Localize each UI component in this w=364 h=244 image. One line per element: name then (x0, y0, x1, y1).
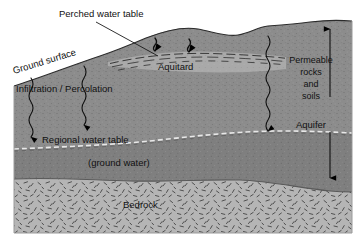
label-aquifer: Aquifer (296, 119, 326, 130)
label-permeable-line1: Permeable (289, 55, 333, 65)
groundwater-cross-section: Perched water table Ground surface Infil… (0, 0, 364, 244)
label-permeable-line3: and (303, 79, 318, 89)
label-regional-water-table: Regional water table (42, 134, 129, 145)
label-permeable-line2: rocks (300, 67, 322, 77)
diagram-canvas: Perched water table Ground surface Infil… (0, 0, 364, 244)
label-bedrock: Bedrock (123, 199, 158, 210)
label-perched-water-table: Perched water table (59, 8, 144, 19)
label-aquitard: Aquitard (158, 61, 193, 72)
label-infiltration-percolation: Infiltration / Percolation (16, 83, 113, 94)
label-permeable-line4: soils (302, 91, 321, 101)
label-ground-water: (ground water) (88, 157, 150, 168)
